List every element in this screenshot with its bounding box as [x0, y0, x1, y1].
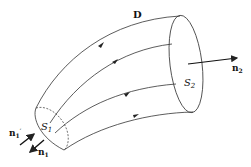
label-n1: n1 [38, 147, 49, 158]
label-n1-prime: n1′ [9, 127, 22, 139]
flow-line-1 [50, 44, 172, 123]
surface-s2-ellipse [164, 13, 208, 114]
flow-arrow-icon [133, 114, 139, 118]
label-s2: S2 [184, 77, 196, 90]
label-d: D [133, 9, 142, 20]
tube-outline-bottom [64, 112, 193, 150]
normal-n1-prime-arrow-icon [20, 134, 34, 145]
flux-tube-diagram: D S2 S1 n2 n1′ n1 [0, 0, 251, 167]
flow-arrow-icon [98, 42, 104, 48]
label-s1: S1 [41, 121, 52, 134]
normal-n2-arrow-icon [188, 58, 237, 64]
tube-outline-top [36, 16, 180, 108]
flow-line-2 [55, 84, 176, 133]
label-n2: n2 [232, 63, 243, 74]
